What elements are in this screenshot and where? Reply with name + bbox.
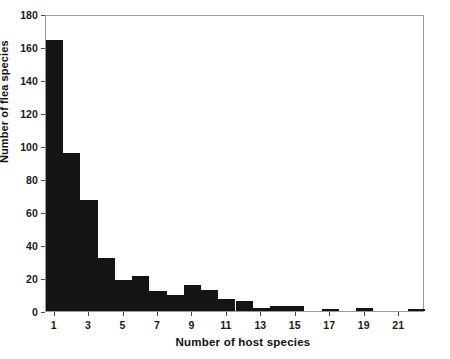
bar <box>253 308 270 311</box>
bar <box>270 306 287 311</box>
x-axis-title-text: Number of host species <box>140 336 311 348</box>
x-axis-title: Number of host species <box>0 336 450 348</box>
y-axis: Number of flea species 02040608010012014… <box>0 0 45 312</box>
x-tick-mark <box>295 312 296 316</box>
x-tick-label: 9 <box>188 319 194 331</box>
y-tick-label: 180 <box>20 9 38 21</box>
y-tick-label: 120 <box>20 108 38 120</box>
x-tick-label: 5 <box>120 319 126 331</box>
bar-series <box>46 16 423 311</box>
y-axis-title: Number of flea species <box>0 40 10 163</box>
bar <box>218 299 235 311</box>
bar <box>184 285 201 311</box>
bar <box>236 301 253 311</box>
x-tick-mark <box>398 312 399 316</box>
x-tick-mark <box>260 312 261 316</box>
bar <box>356 308 373 311</box>
x-tick-mark <box>364 312 365 316</box>
bar <box>98 258 115 311</box>
x-tick-label: 3 <box>85 319 91 331</box>
bar <box>63 153 80 311</box>
x-axis: 13579111315171921 <box>0 312 450 336</box>
bar <box>167 295 184 312</box>
bar <box>287 306 304 311</box>
x-tick-mark <box>157 312 158 316</box>
y-tick-label: 40 <box>26 240 38 252</box>
y-tick-label: 60 <box>26 207 38 219</box>
plot-area <box>45 15 424 312</box>
x-tick-mark <box>191 312 192 316</box>
bar <box>408 309 425 311</box>
y-tick-label: 160 <box>20 42 38 54</box>
x-tick-mark <box>226 312 227 316</box>
x-tick-label: 17 <box>323 319 335 331</box>
y-tick-label: 20 <box>26 273 38 285</box>
y-tick-label: 80 <box>26 174 38 186</box>
x-tick-label: 15 <box>289 319 301 331</box>
bar <box>132 276 149 311</box>
x-tick-label: 19 <box>358 319 370 331</box>
histogram-figure: Number of flea species 02040608010012014… <box>0 0 450 359</box>
x-tick-label: 21 <box>392 319 404 331</box>
bar <box>149 291 166 311</box>
bar <box>322 309 339 311</box>
x-tick-label: 7 <box>154 319 160 331</box>
x-tick-mark <box>123 312 124 316</box>
bar <box>201 290 218 311</box>
x-tick-label: 13 <box>254 319 266 331</box>
bar <box>115 280 132 311</box>
x-tick-mark <box>54 312 55 316</box>
x-tick-label: 1 <box>51 319 57 331</box>
x-tick-label: 11 <box>220 319 231 331</box>
bar <box>80 200 97 311</box>
x-tick-mark <box>88 312 89 316</box>
y-tick-label: 140 <box>20 75 38 87</box>
bar <box>46 40 63 311</box>
y-tick-label: 100 <box>20 141 38 153</box>
x-tick-mark <box>329 312 330 316</box>
